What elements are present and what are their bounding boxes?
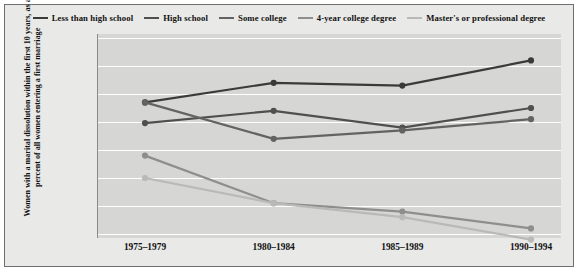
legend-swatch-icon — [144, 17, 159, 20]
data-point-marker[interactable] — [271, 136, 277, 142]
series-line — [145, 178, 531, 240]
y-axis-title: Women with a marital dissolution within … — [23, 0, 44, 221]
data-point-marker[interactable] — [399, 209, 405, 215]
legend-label: High school — [163, 13, 208, 23]
series-line — [145, 156, 531, 229]
data-point-marker[interactable] — [399, 127, 405, 133]
data-point-marker[interactable] — [399, 83, 405, 89]
data-point-marker[interactable] — [271, 200, 277, 206]
legend-swatch-icon — [298, 17, 313, 20]
data-point-marker[interactable] — [142, 175, 148, 181]
chart-frame: Less than high schoolHigh schoolSome col… — [4, 4, 574, 267]
data-point-marker[interactable] — [528, 116, 534, 122]
legend-label: Master's or professional degree — [426, 13, 545, 23]
data-point-marker[interactable] — [142, 99, 148, 105]
legend-item[interactable]: 4-year college degree — [298, 13, 396, 23]
legend-label: Less than high school — [52, 13, 134, 23]
x-axis-tick-label: 1975–1979 — [124, 242, 166, 252]
data-point-marker[interactable] — [271, 80, 277, 86]
legend-item[interactable]: High school — [144, 13, 208, 23]
series-line — [145, 60, 531, 102]
plot-area: 50%45%40%35%30%25%20%15%1975–19791980–19… — [97, 34, 561, 238]
legend-swatch-icon — [407, 17, 422, 20]
data-point-marker[interactable] — [528, 105, 534, 111]
data-point-marker[interactable] — [142, 120, 148, 126]
data-point-marker[interactable] — [528, 225, 534, 231]
x-axis-tick-label: 1990–1994 — [510, 242, 552, 252]
chart-legend: Less than high schoolHigh schoolSome col… — [5, 13, 573, 23]
data-point-marker[interactable] — [271, 108, 277, 114]
x-axis-tick-label: 1980–1984 — [253, 242, 295, 252]
legend-label: Some college — [238, 13, 287, 23]
data-point-marker[interactable] — [528, 57, 534, 63]
legend-item[interactable]: Less than high school — [33, 13, 134, 23]
legend-label: 4-year college degree — [317, 13, 396, 23]
legend-item[interactable]: Master's or professional degree — [407, 13, 545, 23]
data-point-marker[interactable] — [399, 214, 405, 220]
series-line — [145, 102, 531, 138]
legend-swatch-icon — [219, 17, 234, 20]
legend-item[interactable]: Some college — [219, 13, 287, 23]
series-lines — [97, 34, 561, 238]
data-point-marker[interactable] — [142, 153, 148, 159]
x-axis-tick-label: 1985–1989 — [381, 242, 423, 252]
